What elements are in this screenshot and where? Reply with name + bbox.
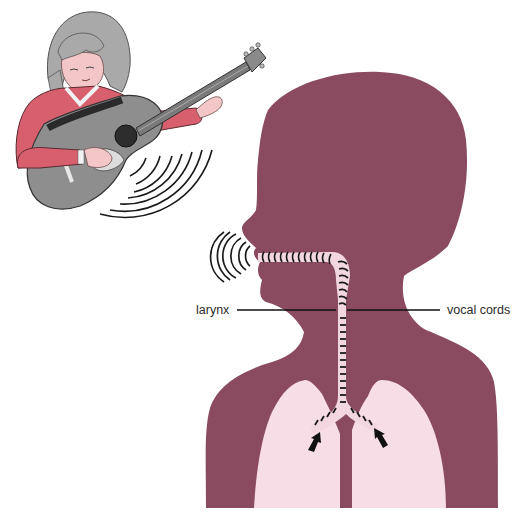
diagram-svg	[0, 0, 530, 525]
label-larynx: larynx	[196, 303, 229, 317]
head-torso-silhouette	[206, 72, 498, 508]
diagram-canvas: larynx vocal cords	[0, 0, 530, 525]
mouth-sound-waves	[211, 232, 250, 282]
label-vocal-cords: vocal cords	[447, 303, 510, 317]
guitar-sound-hole	[115, 125, 137, 147]
guitarist-illustration	[16, 12, 266, 209]
